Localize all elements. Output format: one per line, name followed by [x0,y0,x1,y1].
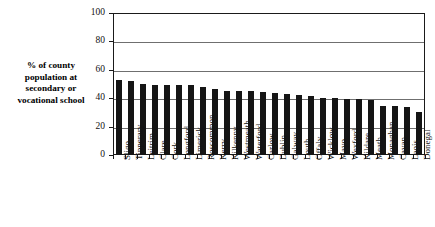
x-label-tipperary: Tipperary [135,125,144,160]
x-label-roscommon: Roscommon [207,114,216,160]
x-label-sligo: Sligo [123,141,132,160]
x-axis-labels: SligoTipperaryLeitrimClareCorkLongfordLi… [113,160,425,226]
x-label-clare: Clare [159,141,168,161]
x-label-kildare: Kildare [363,133,372,160]
x-label-galway: Galway [291,132,300,160]
x-label-louth: Louth [303,139,312,161]
x-label-cork: Cork [171,142,180,160]
x-label-carlow: Carlow [267,134,276,161]
x-label-westmeath: Westmeath [243,120,252,160]
x-label-offaly: Offaly [315,137,324,160]
x-label-dublin: Dublin [279,135,288,160]
x-label-wexford: Wexford [351,129,360,160]
y-tick-label-60: 60 [77,65,105,75]
x-label-laois: Laois [411,140,420,160]
x-label-meath: Meath [375,137,384,160]
y-tick-label-80: 80 [77,36,105,46]
x-label-limerick: Limerick [195,127,204,160]
x-label-monaghan: Monaghan [387,122,396,161]
x-label-waterford: Waterford [255,124,264,160]
x-label-wicklow: Wicklow [327,127,336,160]
chart-page: % of county population at secondary or v… [0,0,435,227]
y-tick-label-0: 0 [77,150,105,160]
x-label-mayo: Mayo [339,139,348,160]
x-tick-0 [113,155,114,159]
y-tick-label-40: 40 [77,93,105,103]
x-label-cavan: Cavan [399,137,408,160]
y-tick-label-20: 20 [77,122,105,132]
x-label-kilkenny: Kilkenny [231,127,240,161]
x-label-kerry: Kerry [219,139,228,160]
x-label-longford: Longford [183,126,192,160]
x-label-leitrim: Leitrim [147,133,156,160]
x-label-donegal: Donegal [423,130,432,161]
y-tick-label-100: 100 [77,8,105,18]
